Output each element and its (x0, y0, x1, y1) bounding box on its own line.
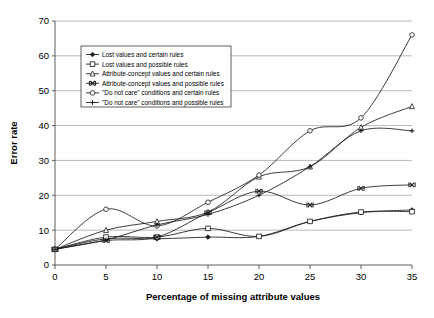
legend-label-3: Attribute-concept values and possible ru… (102, 80, 224, 88)
marker-circle-4-1 (104, 207, 109, 212)
y-tick-label-0: 0 (44, 259, 49, 270)
legend-item-1[interactable]: Lost values and possible rules (86, 61, 188, 69)
x-tick-label-10: 10 (152, 271, 163, 282)
marker-square-1-3 (206, 226, 211, 231)
y-tick-label-30: 30 (38, 155, 49, 166)
marker-circle-4-6 (359, 116, 364, 121)
x-tick-label-35: 35 (407, 271, 418, 282)
legend-item-5[interactable]: "Do not care" conditions and possible ru… (86, 99, 223, 107)
legend-item-3[interactable]: Attribute-concept values and possible ru… (86, 80, 224, 88)
legend-label-0: Lost values and certain rules (102, 51, 183, 58)
chart-legend: Lost values and certain rulesLost values… (81, 46, 231, 107)
legend-label-5: "Do not care" conditions and possible ru… (102, 99, 223, 107)
x-tick-label-30: 30 (356, 271, 367, 282)
x-tick-label-15: 15 (203, 271, 214, 282)
marker-square-1-4 (257, 234, 262, 239)
x-tick-label-0: 0 (52, 271, 57, 282)
y-tick-label-10: 10 (38, 225, 49, 236)
marker-square-1-6 (359, 210, 364, 215)
y-tick-label-20: 20 (38, 190, 49, 201)
legend-item-2[interactable]: Attribute-concept values and certain rul… (86, 70, 220, 78)
y-axis-title: Error rate (8, 121, 19, 164)
marker-circle-4-5 (308, 129, 313, 134)
x-axis-title: Percentage of missing attribute values (146, 291, 320, 302)
y-tick-label-70: 70 (38, 15, 49, 26)
legend-label-2: Attribute-concept values and certain rul… (102, 70, 220, 78)
legend-label-4: "Do not care" conditions and certain rul… (102, 89, 219, 96)
y-tick-label-50: 50 (38, 85, 49, 96)
marker-square-1-7 (410, 209, 415, 214)
x-tick-label-20: 20 (254, 271, 265, 282)
y-tick-label-60: 60 (38, 50, 49, 61)
marker-circle-4-3 (206, 200, 211, 205)
legend-label-1: Lost values and possible rules (102, 61, 188, 69)
marker-circle-4-7 (410, 33, 415, 38)
legend-item-4[interactable]: "Do not care" conditions and certain rul… (86, 89, 219, 96)
x-tick-label-25: 25 (305, 271, 316, 282)
marker-square-legend-1 (90, 62, 95, 67)
y-tick-label-40: 40 (38, 120, 49, 131)
line-chart: 010203040506070 05101520253035 Lost valu… (0, 0, 434, 318)
chart-canvas: 010203040506070 05101520253035 Lost valu… (0, 0, 434, 318)
x-tick-label-5: 5 (103, 271, 108, 282)
marker-square-1-5 (308, 219, 313, 224)
marker-circle-4-4 (257, 173, 262, 178)
marker-circle-legend-4 (90, 91, 95, 96)
